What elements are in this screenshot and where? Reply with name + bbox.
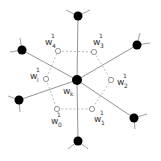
point-w1-1 bbox=[89, 106, 94, 111]
label-w2: w12 bbox=[117, 78, 124, 87]
label-wk: wk bbox=[63, 87, 70, 96]
edge-bottom bbox=[77, 80, 78, 141]
node-upper-left bbox=[18, 46, 27, 55]
node-center-wk bbox=[72, 75, 82, 85]
label-w4: w14 bbox=[45, 38, 52, 47]
node-bottom bbox=[74, 137, 83, 146]
label-w3: w13 bbox=[93, 38, 100, 47]
point-w3 bbox=[91, 49, 96, 54]
point-wi bbox=[43, 76, 48, 81]
node-upper-right bbox=[133, 41, 142, 50]
edge-top bbox=[77, 16, 78, 80]
point-w2 bbox=[108, 77, 113, 82]
edge-upper-right bbox=[77, 45, 137, 80]
label-w1: w11 bbox=[94, 115, 101, 124]
node-top bbox=[74, 12, 83, 21]
point-w4 bbox=[55, 48, 60, 53]
label-wi: w1i bbox=[30, 72, 37, 81]
node-lower-right bbox=[130, 114, 139, 123]
label-w0: w10 bbox=[51, 117, 58, 126]
dual-mesh-diagram bbox=[0, 0, 161, 161]
node-lower-left bbox=[15, 96, 24, 105]
